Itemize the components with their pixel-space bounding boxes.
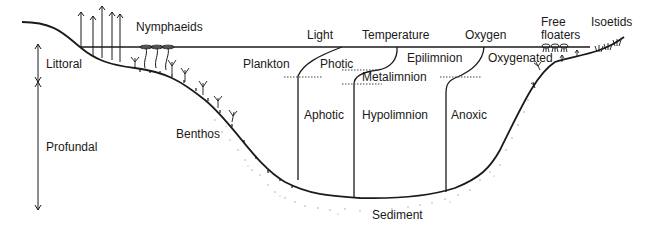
free-floaters-label-line2: floaters	[541, 29, 580, 42]
lake-zonation-diagram: Littoral Profundal Nymphaeids Free float…	[0, 0, 664, 228]
plankton-label: Plankton	[243, 58, 290, 71]
anoxic-label: Anoxic	[451, 109, 487, 122]
aphotic-label: Aphotic	[304, 109, 344, 122]
benthos-label: Benthos	[176, 128, 220, 141]
metalimnion-label: Metalimnion	[362, 71, 427, 84]
light-title: Light	[307, 29, 333, 42]
zone-arrows	[35, 44, 41, 210]
profundal-label: Profundal	[46, 141, 97, 154]
epilimnion-label: Epilimnion	[407, 52, 462, 65]
oxygenated-label: Oxygenated	[488, 52, 553, 65]
hypolimnion-label: Hypolimnion	[362, 109, 428, 122]
temperature-title: Temperature	[362, 29, 429, 42]
littoral-label: Littoral	[46, 58, 82, 71]
nymphaeids-label: Nymphaeids	[136, 21, 203, 34]
isoetids-label: Isoetids	[591, 16, 632, 29]
photic-label: Photic	[320, 58, 353, 71]
oxygen-title: Oxygen	[465, 29, 506, 42]
emergent-reeds-icon	[78, 6, 123, 62]
sediment-label: Sediment	[372, 209, 423, 222]
nymphaeids-icon	[140, 45, 174, 70]
submerged-plants-icon	[131, 57, 237, 122]
